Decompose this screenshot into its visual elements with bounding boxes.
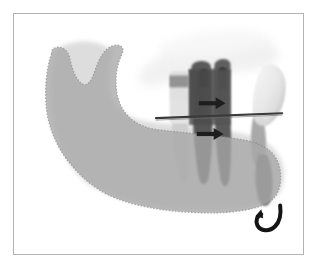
- figure-frame: [13, 13, 304, 255]
- figure-root: [0, 0, 317, 272]
- radiograph-canvas: [14, 14, 303, 254]
